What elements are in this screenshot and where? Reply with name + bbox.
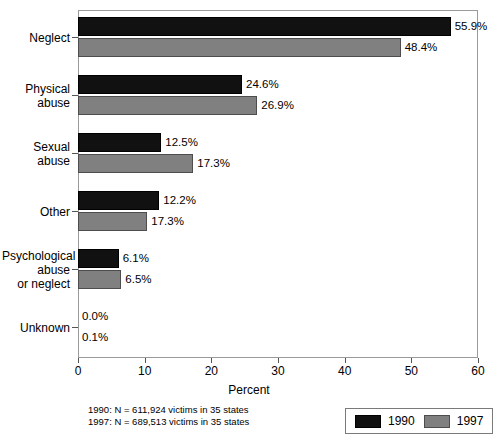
x-axis-tick-label-10: 10 — [125, 364, 165, 378]
bar-value-1997-2: 17.3% — [197, 154, 230, 173]
legend-label-1997: 1997 — [457, 414, 484, 428]
plot-area — [78, 10, 478, 358]
footnote-line-1990: 1990: N = 611,924 victims in 35 states — [88, 404, 249, 416]
category-label-5: Unknown — [2, 321, 70, 335]
footnote-line-1997: 1997: N = 689,513 victims in 35 states — [88, 416, 249, 428]
bar-1990-0 — [78, 17, 451, 36]
x-axis-tick-label-40: 40 — [325, 364, 365, 378]
x-axis-tick-60 — [478, 358, 479, 363]
bar-1997-1 — [78, 96, 257, 115]
bar-value-1990-4: 6.1% — [123, 249, 149, 268]
x-axis-tick-label-50: 50 — [391, 364, 431, 378]
x-axis-tick-40 — [345, 358, 346, 363]
bar-value-1997-5: 0.1% — [82, 328, 108, 347]
bar-value-1990-3: 12.2% — [163, 191, 196, 210]
y-axis-tick-5 — [72, 327, 78, 328]
bar-1997-4 — [78, 270, 121, 289]
category-label-2: Sexual abuse — [2, 140, 70, 168]
legend-label-1990: 1990 — [388, 414, 415, 428]
legend-item-1990: 1990 — [355, 414, 415, 428]
bar-value-1990-2: 12.5% — [165, 133, 198, 152]
bar-1997-2 — [78, 154, 193, 173]
category-label-0: Neglect — [2, 31, 70, 45]
bar-value-1997-3: 17.3% — [151, 212, 184, 231]
bar-1997-3 — [78, 212, 147, 231]
bar-value-1990-1: 24.6% — [246, 75, 279, 94]
footnote: 1990: N = 611,924 victims in 35 states 1… — [88, 404, 249, 427]
x-axis-tick-50 — [411, 358, 412, 363]
bar-value-1997-1: 26.9% — [261, 96, 294, 115]
bar-1990-4 — [78, 249, 119, 268]
x-axis-tick-label-0: 0 — [58, 364, 98, 378]
category-label-4: Psychological abuse or neglect — [2, 249, 70, 291]
bar-1990-1 — [78, 75, 242, 94]
x-axis-title: Percent — [0, 383, 498, 397]
category-label-3: Other — [2, 205, 70, 219]
legend: 1990 1997 — [345, 408, 493, 434]
x-axis-tick-30 — [278, 358, 279, 363]
category-label-1: Physical abuse — [2, 82, 70, 110]
x-axis-tick-label-60: 60 — [458, 364, 498, 378]
x-axis-tick-label-20: 20 — [191, 364, 231, 378]
bar-1997-0 — [78, 38, 401, 57]
x-axis-tick-20 — [211, 358, 212, 363]
bar-value-1997-0: 48.4% — [405, 38, 438, 57]
legend-item-1997: 1997 — [424, 414, 484, 428]
bar-value-1990-0: 55.9% — [455, 17, 488, 36]
x-axis-tick-10 — [145, 358, 146, 363]
legend-swatch-1997 — [424, 415, 450, 428]
bar-value-1990-5: 0.0% — [82, 307, 108, 326]
bar-value-1997-4: 6.5% — [125, 270, 151, 289]
x-axis-tick-label-30: 30 — [258, 364, 298, 378]
bar-1990-3 — [78, 191, 159, 210]
legend-swatch-1990 — [355, 415, 381, 428]
bar-1990-2 — [78, 133, 161, 152]
x-axis-tick-0 — [78, 358, 79, 363]
